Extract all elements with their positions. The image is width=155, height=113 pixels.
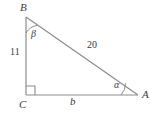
vertex-label-a: A	[142, 89, 149, 100]
triangle-figure: B C A 11 20 b β α	[0, 0, 155, 113]
angle-label-beta: β	[31, 29, 36, 39]
vertex-label-c: C	[19, 99, 26, 110]
side-label-hypotenuse: 20	[87, 40, 97, 50]
hypotenuse-line	[26, 17, 138, 95]
angle-label-alpha: α	[114, 80, 119, 90]
side-label-horizontal-leg: b	[70, 96, 76, 107]
side-label-vertical-leg: 11	[10, 47, 20, 57]
vertex-label-b: B	[20, 2, 27, 13]
triangle-drawing	[0, 0, 155, 113]
right-angle-marker	[26, 86, 35, 95]
